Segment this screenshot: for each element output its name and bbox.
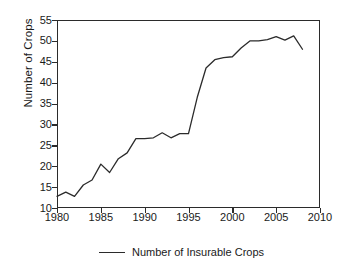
x-tick-label: 2000 bbox=[212, 212, 252, 223]
y-tick-label: 30 bbox=[30, 119, 52, 130]
y-tick-label: 35 bbox=[30, 98, 52, 109]
y-tick-label: 50 bbox=[30, 35, 52, 46]
x-tick-mark bbox=[189, 208, 190, 213]
y-tick-label: 45 bbox=[30, 56, 52, 67]
data-series-line bbox=[57, 20, 320, 208]
x-tick-mark bbox=[57, 208, 58, 213]
chart-figure: Number of Crops 10152025303540455055 198… bbox=[0, 0, 363, 276]
x-tick-label: 1995 bbox=[169, 212, 209, 223]
x-tick-mark bbox=[145, 208, 146, 213]
y-tick-label: 20 bbox=[30, 161, 52, 172]
y-tick-label: 15 bbox=[30, 182, 52, 193]
x-tick-label: 1990 bbox=[125, 212, 165, 223]
x-tick-mark bbox=[276, 208, 277, 213]
x-tick-label: 2005 bbox=[256, 212, 296, 223]
y-tick-label: 40 bbox=[30, 77, 52, 88]
x-tick-label: 1980 bbox=[37, 212, 77, 223]
insurable-crops-line bbox=[57, 36, 302, 196]
legend-line-swatch bbox=[99, 252, 125, 253]
x-tick-mark bbox=[101, 208, 102, 213]
x-tick-mark bbox=[232, 208, 233, 213]
x-tick-mark bbox=[320, 208, 321, 213]
x-tick-label: 2010 bbox=[300, 212, 340, 223]
chart-legend: Number of Insurable Crops bbox=[0, 246, 363, 258]
y-tick-label: 25 bbox=[30, 140, 52, 151]
legend-label: Number of Insurable Crops bbox=[132, 246, 264, 258]
x-tick-label: 1985 bbox=[81, 212, 121, 223]
y-tick-label: 55 bbox=[30, 15, 52, 26]
